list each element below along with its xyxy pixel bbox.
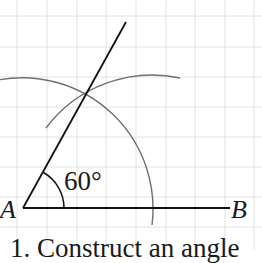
construction-arc-from-b-point xyxy=(46,75,180,128)
point-b-label: B xyxy=(231,197,247,223)
figure-caption: 1. Construct an angle xyxy=(10,235,239,262)
point-a-label: A xyxy=(0,197,16,223)
angle-measure-label: 60° xyxy=(64,168,102,195)
